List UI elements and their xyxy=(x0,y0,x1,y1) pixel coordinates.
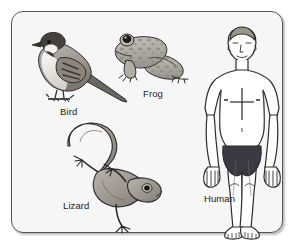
vertebrate-comparison-figure: Bird xyxy=(0,0,294,245)
specimen-label-frog: Frog xyxy=(143,88,163,99)
specimen-label-human: Human xyxy=(204,193,235,204)
human-illustration xyxy=(194,20,290,242)
specimen-label-lizard: Lizard xyxy=(63,200,89,211)
frog-illustration xyxy=(110,28,192,86)
figure-panel: Bird xyxy=(11,11,283,233)
lizard-illustration xyxy=(60,116,170,234)
